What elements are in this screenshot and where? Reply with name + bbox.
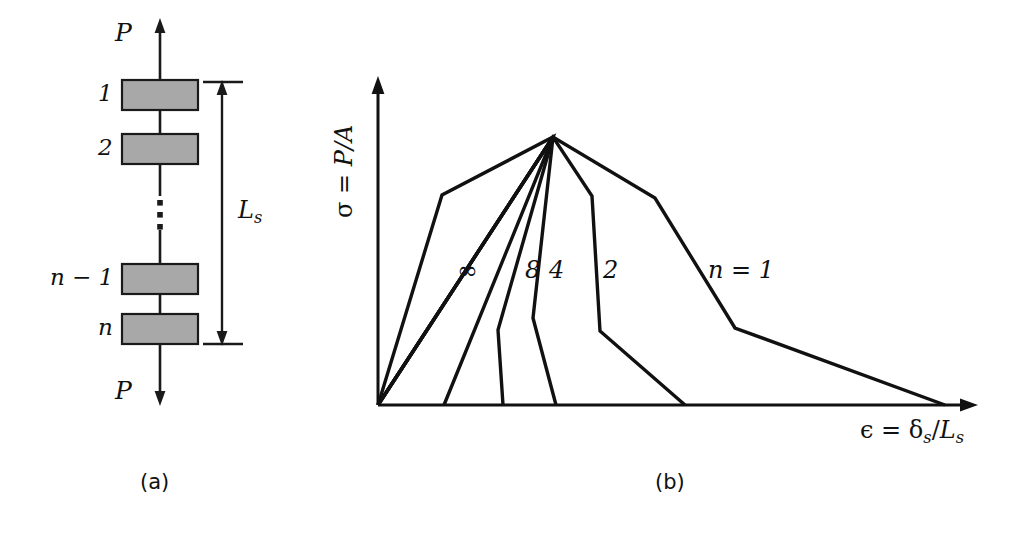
block-label-n: n: [98, 316, 113, 339]
x-axis-label-delta: δ: [909, 416, 923, 444]
load-arrow-top: [155, 18, 166, 44]
panel-a-block-chain: P P 1 2 n − 1 n Ls (a): [0, 0, 340, 535]
x-axis-label-delta-sub: s: [923, 428, 931, 447]
panel-b-stress-strain-chart: σ = P/A ϵ = δs/Ls ∞ 8 4 2 n = 1 (b): [340, 0, 1032, 535]
y-axis-label-rhs: P/A: [330, 125, 358, 167]
curve-label-8: 8: [525, 258, 540, 282]
block-rect-n: [122, 314, 198, 344]
block-label-1: 1: [98, 82, 113, 105]
vertical-dots-icon: [157, 200, 163, 230]
curve-label-n-equals-1: n = 1: [708, 258, 774, 282]
curve-label-infinity: ∞: [457, 258, 478, 283]
x-axis-label-epsilon: ϵ: [860, 416, 873, 444]
y-axis-label-equals: =: [330, 166, 358, 201]
x-axis-label-equals: =: [873, 416, 908, 444]
dimension-arrow-ls: [217, 80, 228, 346]
x-axis-label-l: L: [940, 416, 956, 444]
x-axis-arrowhead: [960, 399, 978, 412]
curve-label-4: 4: [549, 258, 564, 282]
y-axis-label: σ = P/A: [332, 125, 356, 218]
x-axis-label: ϵ = δs/Ls: [860, 418, 964, 446]
x-axis-label-l-sub: s: [956, 428, 964, 447]
length-label-ls-sub: s: [254, 208, 262, 227]
block-rect-1: [122, 80, 198, 110]
figure-root: P P 1 2 n − 1 n Ls (a): [0, 0, 1032, 535]
panel-a-drawing: [0, 0, 340, 470]
block-rect-2: [122, 134, 198, 164]
length-label-ls: Ls: [238, 198, 262, 226]
y-axis-arrowhead: [372, 76, 385, 94]
load-label-bottom: P: [115, 378, 132, 403]
caption-a: (a): [140, 470, 169, 494]
block-label-n-minus-1: n − 1: [50, 266, 113, 289]
y-axis-label-sigma: σ: [330, 202, 358, 218]
length-label-ls-base: L: [238, 196, 254, 224]
curve-label-2: 2: [603, 258, 618, 282]
caption-b: (b): [655, 470, 685, 494]
block-label-2: 2: [98, 136, 113, 159]
load-arrow-bottom: [155, 380, 166, 406]
load-label-top: P: [115, 20, 132, 45]
block-rect-n-1: [122, 264, 198, 294]
chart-drawing: [340, 0, 1032, 470]
